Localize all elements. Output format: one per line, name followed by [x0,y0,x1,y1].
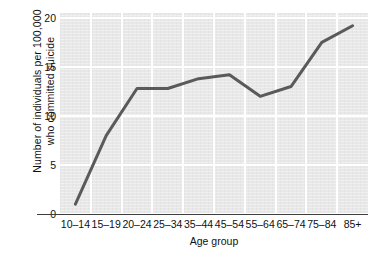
x-tick-label-2: 20–24 [122,217,151,231]
plot-area [60,13,368,214]
x-tick-label-5: 45–54 [215,217,244,231]
x-tick-label-7: 65–74 [276,217,305,231]
y-tick-label-15: 15 [34,61,56,72]
x-tick-label-4: 35–44 [184,217,213,231]
x-axis-title: Age group [60,234,368,248]
x-axis-tick-labels: 10–1415–1920–2425–3435–4445–5455–6465–74… [60,217,368,233]
x-tick-label-9: 85+ [344,217,362,231]
y-tick-label-5: 5 [34,159,56,170]
series-line-suicide-rate [60,13,368,214]
y-tick-label-20: 20 [34,12,56,23]
x-axis-line [37,214,368,215]
y-tick-label-10: 10 [34,110,56,121]
x-tick-label-6: 55–64 [246,217,275,231]
x-tick-label-1: 15–19 [92,217,121,231]
x-tick-label-8: 75–84 [307,217,336,231]
line-chart-figure: Number of individuals per 100,000 who co… [0,0,375,253]
x-tick-label-0: 10–14 [61,217,90,231]
y-axis-tick-labels: 05101520 [34,13,56,214]
x-tick-label-3: 25–34 [153,217,182,231]
